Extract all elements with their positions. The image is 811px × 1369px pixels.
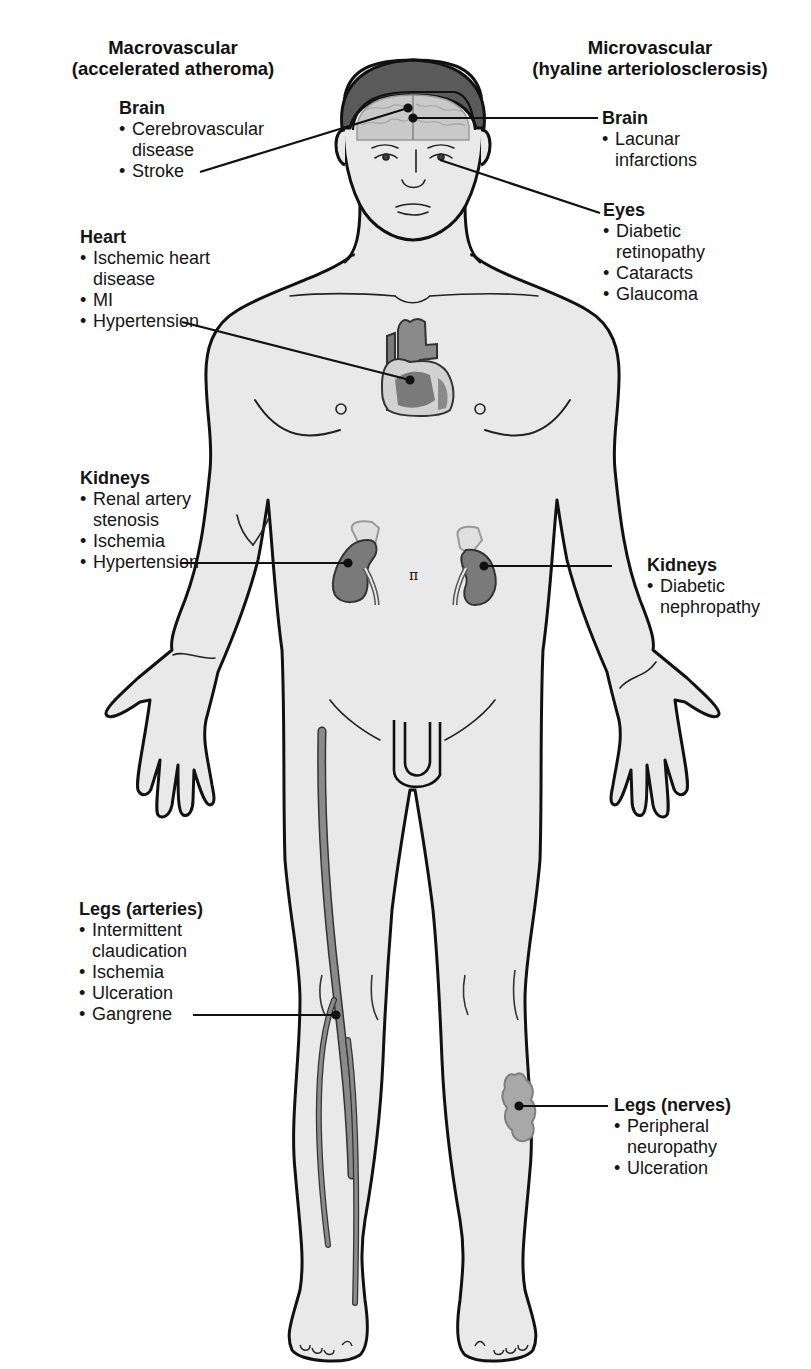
label-micro-brain: Brain Lacunar infarctions xyxy=(602,108,722,171)
label-heading: Brain xyxy=(119,98,279,119)
label-heading: Brain xyxy=(602,108,722,129)
label-item: Renal artery stenosis xyxy=(80,489,210,531)
svg-text:π: π xyxy=(409,567,418,583)
label-macro-brain: Brain Cerebrovascular disease Stroke xyxy=(119,98,279,182)
label-heading: Kidneys xyxy=(80,468,210,489)
category-subtitle: (accelerated atheroma) xyxy=(28,58,318,79)
label-macro-legs: Legs (arteries) Intermittent claudicatio… xyxy=(79,899,229,1025)
category-subtitle: (hyaline arteriolosclerosis) xyxy=(500,58,800,79)
category-title: Macrovascular xyxy=(28,37,318,58)
label-item: MI xyxy=(80,290,215,311)
label-micro-legs: Legs (nerves) Peripheral neuropathy Ulce… xyxy=(614,1095,764,1179)
label-macro-heart: Heart Ischemic heart disease MI Hyperten… xyxy=(80,227,215,332)
label-item: Hypertension xyxy=(80,552,210,573)
label-macro-kidneys: Kidneys Renal artery stenosis Ischemia H… xyxy=(80,468,210,573)
label-item: Gangrene xyxy=(79,1004,229,1025)
label-item: Ischemic heart disease xyxy=(80,248,215,290)
label-item: Diabetic retinopathy xyxy=(603,221,733,263)
label-item: Cerebrovascular disease xyxy=(119,119,279,161)
label-item: Intermittent claudication xyxy=(79,920,229,962)
label-heading: Heart xyxy=(80,227,215,248)
label-item: Peripheral neuropathy xyxy=(614,1116,764,1158)
label-heading: Legs (nerves) xyxy=(614,1095,764,1116)
label-item: Stroke xyxy=(119,161,279,182)
label-item: Ischemia xyxy=(79,962,229,983)
category-microvascular: Microvascular (hyaline arteriolosclerosi… xyxy=(500,37,800,79)
label-item: Diabetic nephropathy xyxy=(647,576,787,618)
label-item: Cataracts xyxy=(603,263,733,284)
label-micro-kidneys: Kidneys Diabetic nephropathy xyxy=(647,555,787,618)
label-item: Lacunar infarctions xyxy=(602,129,722,171)
label-micro-eyes: Eyes Diabetic retinopathy Cataracts Glau… xyxy=(603,200,733,305)
category-title: Microvascular xyxy=(500,37,800,58)
label-heading: Kidneys xyxy=(647,555,787,576)
genitals xyxy=(394,720,440,787)
label-heading: Legs (arteries) xyxy=(79,899,229,920)
torso-outline xyxy=(106,255,719,1361)
label-item: Hypertension xyxy=(80,311,215,332)
label-item: Glaucoma xyxy=(603,284,733,305)
label-item: Ulceration xyxy=(79,983,229,1004)
label-heading: Eyes xyxy=(603,200,733,221)
category-macrovascular: Macrovascular (accelerated atheroma) xyxy=(28,37,318,79)
label-item: Ischemia xyxy=(80,531,210,552)
label-item: Ulceration xyxy=(614,1158,764,1179)
